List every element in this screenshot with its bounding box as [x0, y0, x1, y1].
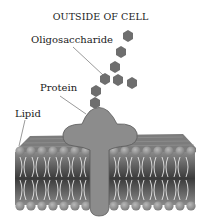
protein-leader-line: [60, 96, 86, 114]
oligosaccharide-leader-line: [73, 47, 103, 75]
membrane-diagram: [0, 0, 201, 222]
